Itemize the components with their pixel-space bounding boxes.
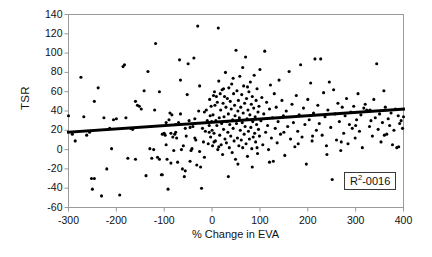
- scatter-point: [226, 131, 229, 134]
- scatter-point: [158, 90, 161, 93]
- scatter-point: [140, 108, 143, 111]
- scatter-point: [368, 125, 371, 128]
- scatter-point: [193, 136, 196, 139]
- scatter-point: [134, 100, 137, 103]
- scatter-point: [228, 123, 231, 126]
- scatter-point: [221, 153, 224, 156]
- scatter-point: [332, 88, 335, 91]
- scatter-point: [311, 135, 314, 138]
- scatter-point: [299, 63, 302, 66]
- scatter-point: [325, 153, 328, 156]
- scatter-point: [354, 136, 357, 139]
- scatter-point: [322, 91, 325, 94]
- scatter-point: [267, 148, 270, 151]
- scatter-point: [208, 124, 211, 127]
- scatter-point: [375, 62, 378, 65]
- scatter-point: [275, 106, 278, 109]
- y-tick-label: 0: [25, 143, 63, 155]
- scatter-point: [246, 108, 249, 111]
- scatter-point: [166, 158, 169, 161]
- scatter-point: [282, 131, 285, 134]
- scatter-point: [379, 140, 382, 143]
- scatter-point: [189, 126, 192, 129]
- scatter-point: [397, 145, 400, 148]
- scatter-point: [222, 102, 225, 105]
- scatter-point: [278, 79, 281, 82]
- scatter-point: [388, 124, 391, 127]
- scatter-point: [228, 146, 231, 149]
- scatter-point: [315, 129, 318, 132]
- scatter-point: [183, 175, 186, 178]
- x-tick-label: 200: [286, 214, 330, 226]
- y-tick-label: 140: [25, 8, 63, 20]
- scatter-chart-figure: TSR % Change in EVA -60-40-2002040608010…: [0, 0, 432, 257]
- scatter-point: [217, 145, 220, 148]
- scatter-point: [67, 114, 70, 117]
- scatter-point: [268, 108, 271, 111]
- scatter-point: [255, 99, 258, 102]
- scatter-point: [115, 117, 118, 120]
- scatter-point: [100, 194, 103, 197]
- scatter-point: [112, 118, 115, 121]
- scatter-point: [234, 49, 237, 52]
- scatter-point: [260, 96, 263, 99]
- scatter-point: [257, 128, 260, 131]
- scatter-point: [219, 108, 222, 111]
- scatter-point: [241, 146, 244, 149]
- scatter-point: [321, 134, 324, 137]
- scatter-point: [398, 122, 401, 125]
- scatter-point: [215, 95, 218, 98]
- scatter-point: [297, 142, 300, 145]
- scatter-point: [356, 92, 359, 95]
- scatter-point: [274, 127, 277, 130]
- scatter-point: [256, 110, 259, 113]
- scatter-point: [182, 144, 185, 147]
- scatter-point: [359, 113, 362, 116]
- scatter-point: [172, 149, 175, 152]
- scatter-point: [93, 177, 96, 180]
- scatter-point: [161, 173, 164, 176]
- scatter-point: [248, 113, 251, 116]
- scatter-point: [371, 135, 374, 138]
- scatter-point: [165, 121, 168, 124]
- scatter-point: [261, 143, 264, 146]
- scatter-point: [185, 135, 188, 138]
- scatter-point: [336, 102, 339, 105]
- x-tick-label: -300: [47, 214, 91, 226]
- scatter-point: [257, 105, 260, 108]
- scatter-point: [251, 95, 254, 98]
- scatter-point: [229, 135, 232, 138]
- scatter-point: [319, 57, 322, 60]
- scatter-point: [222, 128, 225, 131]
- scatter-point: [265, 101, 268, 104]
- scatter-point: [362, 107, 365, 110]
- scatter-point: [93, 100, 96, 103]
- scatter-point: [231, 151, 234, 154]
- scatter-point: [207, 142, 210, 145]
- scatter-point: [190, 147, 193, 150]
- scatter-point: [300, 136, 303, 139]
- scatter-point: [189, 160, 192, 163]
- scatter-point: [341, 106, 344, 109]
- scatter-point: [184, 127, 187, 130]
- scatter-point: [255, 123, 258, 126]
- scatter-point: [238, 75, 241, 78]
- scatter-point: [279, 133, 282, 136]
- scatter-point: [97, 86, 100, 89]
- scatter-point: [218, 134, 221, 137]
- scatter-point: [188, 119, 191, 122]
- scatter-point: [390, 111, 393, 114]
- scatter-point: [215, 124, 218, 127]
- scatter-point: [346, 142, 349, 145]
- y-tick-label: 20: [25, 123, 63, 135]
- scatter-point: [402, 115, 405, 118]
- scatter-point: [256, 152, 259, 155]
- scatter-point: [154, 42, 157, 45]
- x-axis-tick-marks: [69, 208, 404, 212]
- scatter-point: [303, 123, 306, 126]
- x-tick-label: 100: [238, 214, 282, 226]
- scatter-point: [216, 148, 219, 151]
- scatter-point: [342, 132, 345, 135]
- scatter-point: [192, 56, 195, 59]
- scatter-point: [196, 25, 199, 28]
